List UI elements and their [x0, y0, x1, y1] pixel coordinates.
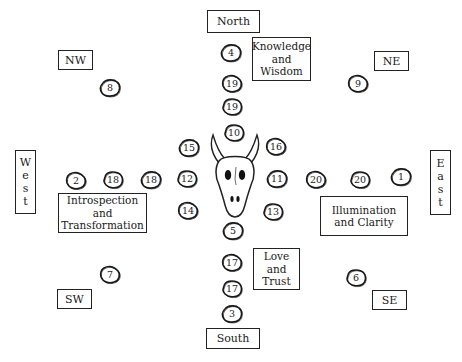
stone-inner-ne: 16	[266, 138, 286, 155]
stone-number: 2	[66, 172, 86, 189]
direction-west-letter: s	[23, 182, 29, 195]
stone-south-3: 3	[222, 305, 242, 322]
stone-north-2: 19	[222, 75, 242, 92]
direction-se: SE	[372, 290, 407, 310]
stone-number: 16	[266, 138, 286, 155]
stone-number: 19	[222, 75, 242, 92]
stone-number: 10	[224, 124, 244, 141]
direction-sw-label: SW	[65, 293, 84, 306]
stone-inner-se: 13	[263, 203, 283, 220]
stone-inner-w: 12	[177, 170, 197, 187]
stone-number: 8	[100, 79, 120, 96]
stone-number: 1	[391, 168, 411, 185]
stone-number: 20	[350, 171, 370, 188]
stone-number: 11	[267, 170, 287, 187]
stone-west-2: 18	[103, 171, 123, 188]
stone-number: 15	[179, 139, 199, 156]
direction-east-letter: s	[438, 183, 444, 196]
direction-se-label: SE	[382, 294, 398, 307]
stone-number: 13	[263, 203, 283, 220]
direction-sw: SW	[57, 289, 92, 309]
stone-number: 7	[100, 266, 120, 283]
theme-line: and Clarity	[334, 216, 393, 229]
direction-west-letter: t	[23, 195, 27, 208]
stone-west-1: 2	[66, 172, 86, 189]
direction-east-letter: t	[438, 196, 442, 209]
theme-illumination-clarity: Illumination and Clarity	[320, 196, 408, 236]
direction-north-label: North	[217, 15, 250, 28]
theme-line: Illumination	[332, 204, 397, 217]
direction-east: E a s t	[430, 150, 451, 215]
buffalo-skull-icon	[205, 133, 265, 223]
direction-east-letter: a	[437, 170, 444, 183]
stone-number: 14	[178, 202, 198, 219]
stone-north-1: 4	[221, 44, 241, 61]
stone-number: 6	[346, 269, 366, 286]
stone-number: 9	[348, 75, 368, 92]
stone-sw: 7	[100, 266, 120, 283]
theme-line: Love	[264, 250, 289, 263]
stone-north-3: 19	[222, 98, 242, 115]
direction-south-label: South	[217, 332, 250, 345]
theme-knowledge-wisdom: Knowledge and Wisdom	[252, 37, 311, 81]
direction-south: South	[206, 328, 260, 349]
theme-line: and	[272, 53, 292, 66]
stone-number: 17	[222, 280, 242, 297]
stone-number: 18	[103, 171, 123, 188]
theme-line: Knowledge	[252, 40, 311, 53]
stone-number: 5	[223, 222, 243, 239]
stone-inner-nw: 15	[179, 139, 199, 156]
direction-north: North	[207, 10, 260, 33]
direction-east-letter: E	[436, 157, 444, 170]
stone-south-2: 17	[222, 280, 242, 297]
direction-west-letter: e	[22, 169, 29, 182]
direction-nw-label: NW	[65, 54, 86, 67]
theme-line: Wisdom	[260, 65, 302, 78]
stone-number: 18	[141, 171, 161, 188]
stone-ne: 9	[348, 75, 368, 92]
theme-introspection-transformation: Introspection and Transformation	[58, 193, 147, 233]
stone-number: 12	[177, 170, 197, 187]
stone-inner-n: 10	[224, 124, 244, 141]
theme-line: Introspection	[67, 194, 138, 207]
stone-se: 6	[346, 269, 366, 286]
stone-number: 20	[306, 171, 326, 188]
stone-east-1: 20	[306, 171, 326, 188]
direction-west-letter: W	[20, 156, 31, 169]
direction-ne-label: NE	[383, 55, 401, 68]
direction-west: W e s t	[15, 150, 36, 214]
stone-number: 17	[222, 254, 242, 271]
stone-east-2: 20	[350, 171, 370, 188]
stone-south-1: 17	[222, 254, 242, 271]
theme-love-trust: Love and Trust	[253, 248, 300, 290]
stone-inner-sw: 14	[178, 202, 198, 219]
direction-ne: NE	[374, 51, 409, 71]
stone-west-3: 18	[141, 171, 161, 188]
direction-nw: NW	[58, 50, 93, 70]
stone-east-3: 1	[391, 168, 411, 185]
theme-line: and	[267, 263, 287, 276]
stone-number: 4	[221, 44, 241, 61]
stone-inner-e: 11	[267, 170, 287, 187]
stone-number: 3	[222, 305, 242, 322]
theme-line: Trust	[262, 275, 290, 288]
stone-nw: 8	[100, 79, 120, 96]
theme-line: and	[93, 207, 113, 220]
theme-line: Transformation	[61, 219, 144, 232]
stone-inner-s: 5	[223, 222, 243, 239]
stone-number: 19	[222, 98, 242, 115]
